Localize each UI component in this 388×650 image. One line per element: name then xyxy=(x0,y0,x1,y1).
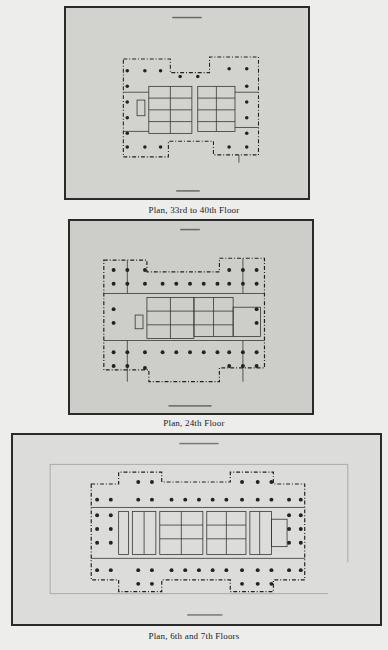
floor-plan-drawing xyxy=(70,221,312,413)
floor-plan-33rd-to-40th xyxy=(64,6,310,200)
caption-plan-24: Plan, 24th Floor xyxy=(0,418,388,428)
floor-plan-drawing xyxy=(66,8,308,198)
caption-plan-33-40: Plan, 33rd to 40th Floor xyxy=(0,205,388,215)
floor-plan-drawing xyxy=(13,435,380,624)
floor-plan-24th xyxy=(68,219,314,415)
floor-plan-6th-7th xyxy=(11,433,382,626)
caption-plan-6-7: Plan, 6th and 7th Floors xyxy=(0,631,388,641)
